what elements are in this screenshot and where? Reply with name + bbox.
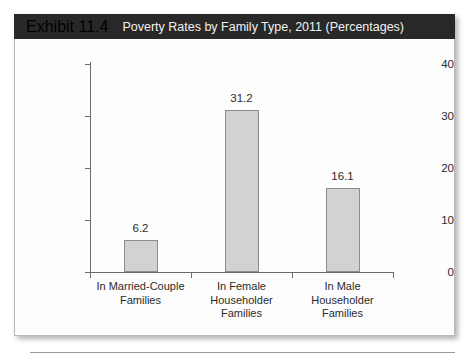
bar[interactable] [124,240,158,272]
x-axis-tick [191,272,192,278]
exhibit-header: Exhibit 11.4 Poverty Rates by Family Typ… [14,14,455,39]
x-axis-tick [90,272,91,278]
y-axis-tick [85,220,91,221]
footer-divider [30,352,455,353]
y-axis-tick-label: 30 [392,110,454,122]
bar-value-label: 6.2 [106,222,176,234]
bar[interactable] [225,110,259,272]
exhibit-card: Exhibit 11.4 Poverty Rates by Family Typ… [14,14,455,336]
bar-value-label: 16.1 [308,170,378,182]
exhibit-number: Exhibit 11.4 [26,18,108,36]
x-axis-tick [393,272,394,278]
bar[interactable] [326,188,360,272]
x-axis-tick [292,272,293,278]
x-axis-line [90,272,393,273]
x-axis-category-label: In Married-CoupleFamilies [90,280,191,307]
category-label-line: Householder [292,294,393,308]
y-axis-tick-label: 0 [392,266,454,278]
category-label-line: Householder [191,294,292,308]
bar-chart-plot-area: 010203040 6.231.216.1 In Married-CoupleF… [15,40,454,335]
y-axis-tick-label: 20 [392,162,454,174]
y-axis-tick [85,116,91,117]
category-label-line: Families [292,307,393,321]
y-axis-tick [85,64,91,65]
category-label-line: In Female [191,280,292,294]
category-label-line: In Male [292,280,393,294]
category-label-line: In Married-Couple [90,280,191,294]
y-axis-tick-label: 40 [392,58,454,70]
category-label-line: Families [90,294,191,308]
x-axis-category-label: In FemaleHouseholderFamilies [191,280,292,321]
y-axis-tick [85,168,91,169]
bar-value-label: 31.2 [207,92,277,104]
x-axis-category-label: In MaleHouseholderFamilies [292,280,393,321]
exhibit-title: Poverty Rates by Family Type, 2011 (Perc… [122,20,404,34]
y-axis-tick-label: 10 [392,214,454,226]
category-label-line: Families [191,307,292,321]
